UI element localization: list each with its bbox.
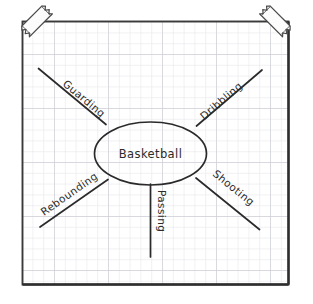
center-label: Basketball: [119, 147, 183, 161]
screenshot-root: Basketball Guarding Dribbling Rebounding…: [0, 0, 313, 304]
concept-map-canvas: Basketball Guarding Dribbling Rebounding…: [0, 0, 313, 304]
branch-label-passing: Passing: [156, 190, 168, 232]
